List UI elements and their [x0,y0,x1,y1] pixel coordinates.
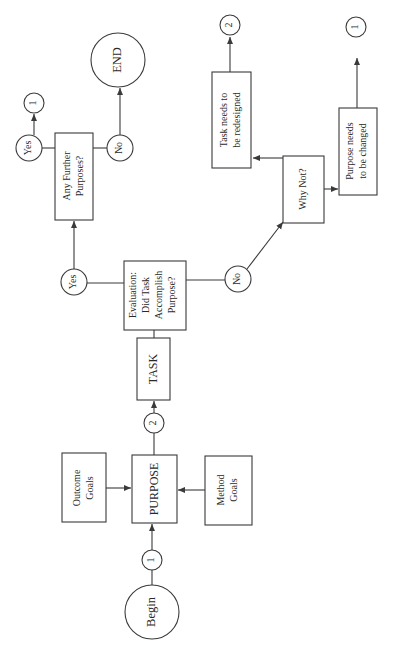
purpose-change-box: Purpose needs to be changed [339,108,377,195]
task-redesign-line2: be redesigned [231,92,242,147]
evaluation-line2: Did Task [140,277,151,313]
purpose-change-line1: Purpose needs [344,122,355,180]
task-redesign-box: Task needs to be redesigned [212,72,251,168]
end-label: END [110,47,124,73]
no-label: No [231,273,242,285]
evaluation-box: Evaluation: Did Task Accomplish Purpose? [124,261,186,330]
outcome-goals-line2: Goals [84,476,95,499]
any-further-line1: Any Further [61,151,72,201]
no-label: No [113,142,124,154]
any-further-line2: Purposes? [74,155,85,196]
task-redesign-connector-2: 2 [220,15,240,35]
task-box: TASK [137,338,170,400]
connector-label: 1 [145,558,156,563]
why-not-box: Why Not? [283,156,324,223]
end-node: END [91,33,145,87]
connector-label: 1 [27,101,38,106]
begin-label: Begin [144,596,158,627]
evaluation-line3: Accomplish [153,271,164,319]
further-yes-connector-1: 1 [24,93,44,113]
connector-1-start: 1 [142,550,162,570]
edge-no-to-why-not [247,222,283,269]
method-goals-line2: Goals [228,478,239,501]
further-no-node: No [107,135,133,161]
why-not-label: Why Not? [297,168,308,210]
eval-no-node: No [225,266,251,292]
purpose-change-connector-1: 1 [346,17,366,37]
yes-label: Yes [67,275,78,290]
method-goals-box: Method Goals [205,456,252,525]
purpose-box: PURPOSE [132,455,177,523]
further-yes-node: Yes [16,135,42,161]
connector-label: 2 [147,421,158,426]
yes-label: Yes [22,141,33,156]
task-redesign-line1: Task needs to [218,93,229,147]
begin-node: Begin [125,585,179,639]
evaluation-line4: Purpose? [166,276,177,313]
purpose-change-line2: to be changed [357,123,368,179]
evaluation-line1: Evaluation: [127,272,138,318]
purpose-label: PURPOSE [147,463,161,516]
outcome-goals-box: Outcome Goals [62,453,106,522]
connector-label: 2 [223,23,234,28]
eval-yes-node: Yes [61,269,87,295]
flowchart-canvas: Begin 1 Outcome Goals PURPOSE Method Goa… [0,0,394,647]
connector-label: 1 [349,25,360,30]
any-further-purposes-box: Any Further Purposes? [55,133,93,220]
task-label: TASK [146,353,160,384]
outcome-goals-line1: Outcome [71,469,82,506]
method-goals-line1: Method [215,474,226,505]
connector-2-mid: 2 [144,413,164,433]
